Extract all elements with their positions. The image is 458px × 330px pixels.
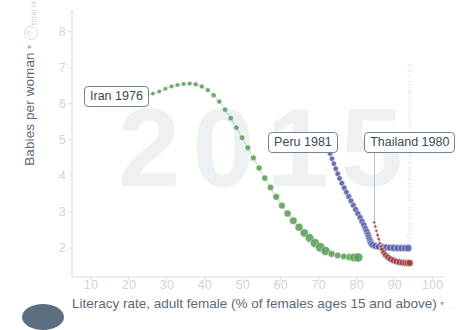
point-iran-23[interactable]	[279, 202, 286, 209]
y-axis-subtitle: total fertility	[29, 0, 38, 25]
thailand-leader-line	[374, 150, 375, 223]
point-iran-14[interactable]	[228, 116, 233, 121]
y-tick-7: 7	[44, 61, 66, 75]
point-iran-16[interactable]	[239, 135, 244, 140]
y-axis-title[interactable]: Babies per woman▾?	[22, 0, 38, 196]
x-axis-trailing-dots: ...	[444, 300, 455, 310]
point-iran-9[interactable]	[199, 84, 204, 89]
point-iran-7[interactable]	[187, 81, 192, 86]
series-peru[interactable]	[328, 151, 412, 252]
point-iran-20[interactable]	[262, 175, 268, 181]
point-iran-33[interactable]	[335, 252, 341, 258]
x-axis-title[interactable]: Literacy rate, adult female (% of female…	[72, 296, 444, 311]
series-thailand[interactable]	[373, 221, 414, 267]
point-iran-8[interactable]	[193, 82, 198, 87]
point-peru-1[interactable]	[329, 156, 334, 161]
point-iran-18[interactable]	[251, 155, 257, 161]
point-iran-3[interactable]	[163, 87, 167, 91]
x-axis-title-text: Literacy rate, adult female (% of female…	[72, 296, 437, 311]
point-peru-3[interactable]	[333, 166, 338, 171]
y-tick-2: 2	[44, 241, 66, 255]
point-iran-5[interactable]	[175, 83, 180, 88]
point-peru-2[interactable]	[331, 161, 336, 166]
point-iran-1[interactable]	[151, 92, 155, 96]
help-icon[interactable]: ?	[24, 26, 38, 40]
point-iran-15[interactable]	[234, 125, 239, 130]
callout-iran[interactable]: Iran 1976	[84, 86, 149, 107]
y-axis-title-text: Babies per woman	[22, 52, 37, 165]
point-iran-13[interactable]	[222, 107, 227, 112]
point-iran-25[interactable]	[290, 217, 298, 225]
point-thailand-2[interactable]	[375, 229, 378, 232]
point-thailand-3[interactable]	[376, 234, 379, 237]
point-iran-17[interactable]	[245, 145, 251, 151]
y-tick-4: 4	[44, 169, 66, 183]
corner-bubble-decoration	[22, 304, 64, 330]
y-tick-8: 8	[44, 25, 66, 39]
chevron-down-icon[interactable]: ▾	[25, 45, 34, 49]
y-tick-3: 3	[44, 205, 66, 219]
y-tick-5: 5	[44, 133, 66, 147]
series-iran[interactable]	[144, 81, 363, 262]
point-iran-37[interactable]	[354, 253, 363, 262]
point-thailand-4[interactable]	[377, 238, 380, 241]
point-iran-19[interactable]	[256, 165, 262, 171]
point-thailand-18[interactable]	[406, 259, 413, 266]
point-peru-34[interactable]	[405, 244, 412, 251]
point-iran-2[interactable]	[157, 89, 161, 93]
callout-thailand[interactable]: Thailand 1980	[364, 132, 455, 153]
point-thailand-5[interactable]	[378, 242, 381, 245]
callout-peru[interactable]: Peru 1981	[268, 132, 338, 153]
point-iran-32[interactable]	[328, 251, 335, 258]
point-thailand-1[interactable]	[374, 225, 377, 228]
y-tick-6: 6	[44, 97, 66, 111]
point-iran-11[interactable]	[211, 93, 216, 98]
point-iran-6[interactable]	[181, 82, 186, 87]
point-iran-21[interactable]	[267, 184, 273, 190]
point-iran-10[interactable]	[206, 88, 211, 93]
point-iran-24[interactable]	[284, 210, 291, 217]
point-iran-4[interactable]	[169, 84, 173, 88]
point-iran-12[interactable]	[217, 99, 222, 104]
point-iran-22[interactable]	[273, 194, 280, 201]
